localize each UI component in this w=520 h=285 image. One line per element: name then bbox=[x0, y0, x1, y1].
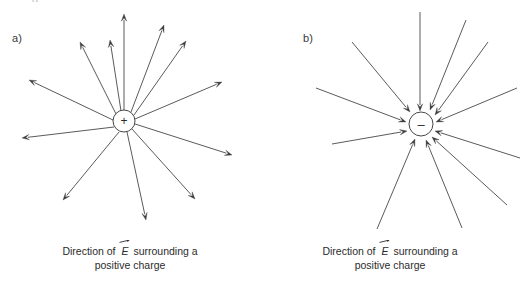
field-line-arrow bbox=[131, 25, 164, 112]
field-line-arrow bbox=[332, 130, 407, 144]
negative-charge: – bbox=[409, 112, 433, 136]
field-line-arrow bbox=[134, 41, 186, 115]
charge-sign: + bbox=[120, 114, 127, 128]
caption-b-vector-E: E bbox=[380, 244, 389, 258]
panel-a-caption: Direction of E surrounding a positive ch… bbox=[0, 244, 260, 272]
field-line-arrow bbox=[417, 12, 422, 111]
field-line-arrow bbox=[80, 42, 116, 114]
panel-a-field-diagram: + bbox=[0, 0, 260, 240]
caption-b-prefix: Direction of bbox=[322, 245, 375, 257]
caption-a-vector-E: E bbox=[120, 244, 129, 258]
caption-a-suffix: surrounding a bbox=[133, 245, 197, 257]
panel-b-caption: Direction of E surrounding a positive ch… bbox=[260, 244, 520, 272]
field-line-arrow bbox=[435, 131, 520, 158]
field-line-arrow bbox=[121, 14, 126, 110]
field-line-arrow bbox=[108, 40, 121, 111]
field-line-arrow bbox=[352, 42, 410, 112]
electric-field-figure: g a) + Direction of E surrounding a posi… bbox=[0, 0, 520, 285]
field-line-arrow bbox=[135, 82, 222, 119]
field-line-arrow bbox=[127, 132, 147, 220]
field-line-arrow bbox=[132, 129, 195, 199]
field-line-arrow bbox=[63, 132, 119, 200]
caption-a-symbol: E bbox=[121, 245, 128, 257]
field-line-arrow bbox=[432, 137, 507, 205]
caption-a-line2: positive charge bbox=[0, 258, 260, 272]
field-line-arrow bbox=[29, 80, 113, 120]
panel-b-field-diagram: – bbox=[260, 0, 520, 240]
field-line-arrow bbox=[426, 140, 462, 228]
field-line-arrow bbox=[22, 127, 114, 140]
field-line-arrow bbox=[436, 88, 517, 122]
caption-b-line2: positive charge bbox=[260, 258, 520, 272]
field-line-arrow bbox=[316, 88, 406, 122]
positive-charge: + bbox=[113, 110, 135, 132]
field-line-arrow bbox=[377, 139, 415, 229]
charge-sign: – bbox=[417, 117, 425, 132]
panel-a-positive-charge: a) + Direction of E surrounding a positi… bbox=[0, 0, 260, 285]
caption-b-symbol: E bbox=[381, 245, 388, 257]
caption-b-suffix: surrounding a bbox=[393, 245, 457, 257]
panel-b-negative-charge: b) – Direction of E surrounding a positi… bbox=[260, 0, 520, 285]
field-line-arrow bbox=[135, 124, 232, 155]
caption-a-prefix: Direction of bbox=[62, 245, 115, 257]
